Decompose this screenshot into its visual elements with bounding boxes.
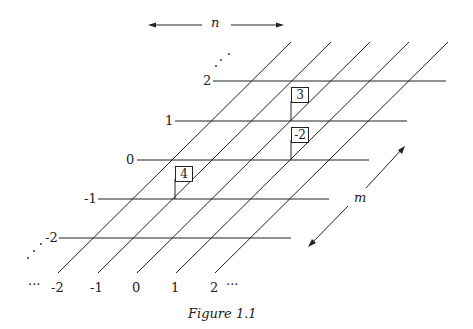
ellipsis-left: ··· bbox=[28, 278, 40, 291]
m-axis-label: m bbox=[354, 191, 366, 204]
row-label-minus1: -1 bbox=[84, 192, 97, 205]
dot bbox=[33, 250, 35, 252]
dot bbox=[27, 257, 29, 259]
m-arrow-down bbox=[310, 206, 348, 245]
arrowhead-right-icon bbox=[276, 23, 284, 28]
dot bbox=[220, 59, 222, 61]
n-axis-label: n bbox=[211, 16, 219, 29]
col-label-2: 2 bbox=[210, 281, 218, 294]
value-box-3: 3 bbox=[291, 87, 309, 103]
col-label-0: 0 bbox=[132, 281, 140, 294]
row-label-1: 1 bbox=[165, 114, 173, 127]
m-arrow-up bbox=[366, 148, 403, 188]
figure-caption: Figure 1.1 bbox=[188, 307, 257, 320]
arrowhead-left-icon bbox=[148, 23, 156, 28]
col-line-2 bbox=[215, 42, 448, 273]
col-label-minus2: -2 bbox=[51, 281, 64, 294]
row-label-2: 2 bbox=[203, 74, 211, 87]
col-label-1: 1 bbox=[171, 281, 179, 294]
dot bbox=[40, 243, 42, 245]
col-label-minus1: -1 bbox=[90, 281, 103, 294]
dot bbox=[228, 53, 230, 55]
value-box-minus2: -2 bbox=[291, 127, 309, 143]
row-label-minus2: -2 bbox=[45, 231, 58, 244]
dot bbox=[215, 65, 217, 67]
value-box-4: 4 bbox=[175, 166, 193, 182]
ellipsis-right: ··· bbox=[226, 278, 238, 291]
row-label-0: 0 bbox=[126, 153, 134, 166]
